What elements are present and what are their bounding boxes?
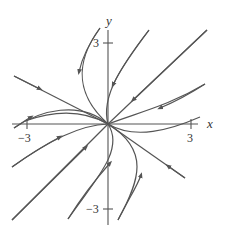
y-tick-label-neg3: −3 (86, 202, 99, 216)
y-axis-label: y (104, 13, 112, 28)
x-tick-label-neg3: −3 (18, 131, 31, 145)
x-tick-label-3: 3 (187, 131, 193, 145)
trajectory-left-upper-arrow (14, 117, 31, 128)
eigenline-right-arrow (168, 166, 185, 178)
trajectory-right-upper (108, 84, 205, 124)
eigenline-left-arrow (14, 76, 40, 89)
y-tick-label-3: 3 (93, 36, 99, 50)
trajectory-upper-center (106, 30, 149, 124)
trajectory-left-mid (25, 113, 108, 124)
phase-portrait-diagram: y x 3 −3 −3 3 (0, 0, 225, 239)
trajectory-upper-left-arrow (79, 28, 100, 72)
x-axis-label: x (206, 116, 213, 131)
trajectory-lower-right-arrow (118, 175, 141, 220)
